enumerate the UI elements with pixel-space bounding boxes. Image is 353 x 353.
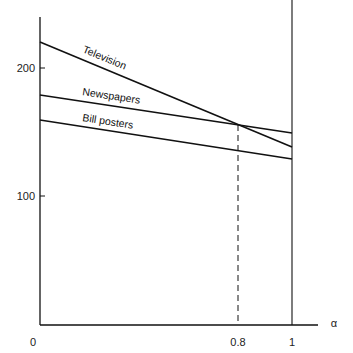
series-line-television <box>40 42 292 147</box>
x-axis-label-alpha: α <box>331 317 338 329</box>
series-label-television: Television <box>81 43 128 72</box>
y-tick-label-200: 200 <box>17 62 35 74</box>
x-tick-label-08: 0.8 <box>230 336 245 348</box>
x-tick-label-1: 1 <box>289 336 295 348</box>
x-tick-label-0: 0 <box>30 336 36 348</box>
series-line-bill-posters <box>40 120 292 159</box>
chart: 200 100 0 0.8 1 α Television Newspapers … <box>0 0 353 353</box>
y-tick-label-100: 100 <box>17 190 35 202</box>
series-line-newspapers <box>40 95 292 133</box>
